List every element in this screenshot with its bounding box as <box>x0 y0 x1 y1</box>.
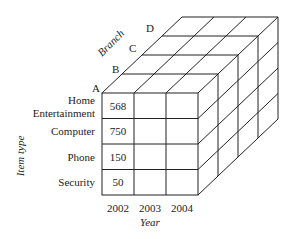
row-label-computer: Computer <box>51 125 95 137</box>
item-type-axis-title: Item type <box>14 136 26 178</box>
year-label-2004: 2004 <box>171 202 194 214</box>
row-label-entertainment: Entertainment <box>33 107 95 119</box>
branch-label-d: D <box>146 22 154 34</box>
year-axis-title: Year <box>140 216 160 228</box>
cell-value: 568 <box>110 100 127 112</box>
cell-value: 750 <box>110 125 127 137</box>
year-label-2003: 2003 <box>139 202 162 214</box>
year-label-2002: 2002 <box>107 202 129 214</box>
right-face <box>198 17 278 195</box>
item-type-labels: Home Entertainment Computer Phone Securi… <box>33 94 96 188</box>
row-label-security: Security <box>58 176 95 188</box>
branch-label-b: B <box>112 63 119 75</box>
row-label-phone: Phone <box>68 151 96 163</box>
branch-label-a: A <box>92 82 100 94</box>
top-face <box>102 17 278 93</box>
cell-value: 150 <box>110 151 127 163</box>
cell-value: 50 <box>113 176 125 188</box>
branch-axis-title: Branch <box>95 27 127 59</box>
data-cube-diagram: A B C D Branch Home Entertainment Comput… <box>0 0 294 239</box>
year-labels: 2002 2003 2004 Year <box>107 202 194 228</box>
row-label-home: Home <box>68 94 95 106</box>
branch-label-c: C <box>129 42 136 54</box>
